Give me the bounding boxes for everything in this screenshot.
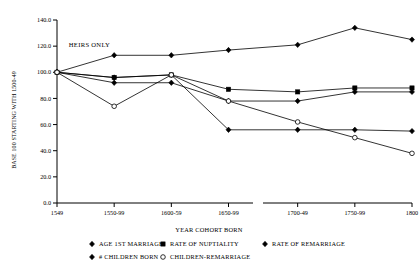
- annotation-group: HEIRS ONLY: [69, 41, 110, 48]
- legend-item-label: CHILDREN-REMARRIAGE: [170, 253, 250, 260]
- x-axis-title-text: YEAR COHORT BORN: [175, 226, 243, 233]
- legend-item-label: AGE 1ST MARRIAGE: [99, 240, 163, 247]
- y-tick-label: 80.0: [40, 95, 51, 102]
- data-point: [226, 87, 230, 91]
- x-tick-label: 1549: [51, 209, 63, 216]
- x-tick-label: 1700-49: [287, 209, 308, 216]
- chart-figure: BASE 100 STARTING WITH 1500-49 0.020.040…: [0, 0, 419, 272]
- legend-item[interactable]: CHILDREN-REMARRIAGE: [161, 253, 251, 260]
- x-tick-label: 1600-59: [161, 209, 182, 216]
- x-tick-group: 15491550-991600-591650-991700-491750-991…: [51, 203, 418, 216]
- data-point: [352, 25, 357, 30]
- legend-item[interactable]: RATE OF REMARRIAGE: [263, 240, 346, 247]
- cohort-index-line-chart: BASE 100 STARTING WITH 1500-49 0.020.040…: [0, 0, 419, 272]
- series-age-1st-marriage: [55, 25, 415, 75]
- series-rate-of-remarriage: [55, 70, 415, 104]
- legend-item[interactable]: RATE OF NUPTIALITY: [161, 240, 239, 247]
- chart-annotation: HEIRS ONLY: [69, 41, 110, 48]
- y-tick-label: 120.0: [37, 42, 51, 49]
- data-point: [112, 104, 117, 109]
- x-tick-label: 1550-99: [104, 209, 125, 216]
- y-axis-title: BASE 100 STARTING WITH 1500-49: [11, 71, 17, 169]
- y-tick-label: 140.0: [37, 16, 51, 23]
- data-point: [296, 90, 300, 94]
- y-tick-label: 60.0: [40, 121, 51, 128]
- data-point: [226, 99, 231, 104]
- data-point: [112, 80, 117, 85]
- series-children-born: [55, 70, 415, 134]
- y-tick-label: 20.0: [40, 173, 51, 180]
- x-tick-label: 1800: [406, 209, 418, 216]
- legend-item-label: # CHILDREN BORN: [99, 253, 159, 260]
- legend-marker-icon: [263, 241, 268, 246]
- data-point: [410, 128, 415, 133]
- data-point: [295, 98, 300, 103]
- series-polyline: [57, 72, 412, 153]
- data-point: [410, 151, 415, 156]
- data-point: [352, 127, 357, 132]
- y-axis-title-text: BASE 100 STARTING WITH 1500-49: [11, 71, 17, 169]
- x-tick-label: 1750-99: [345, 209, 366, 216]
- data-point: [410, 37, 415, 42]
- legend-item-label: RATE OF REMARRIAGE: [272, 240, 345, 247]
- y-axis: 0.020.040.060.080.0100.0120.0140.0: [37, 16, 57, 206]
- data-point: [226, 47, 231, 52]
- y-tick-group: 0.020.040.060.080.0100.0120.0140.0: [37, 16, 57, 206]
- y-tick-label: 100.0: [37, 68, 51, 75]
- data-point: [169, 73, 174, 78]
- data-point: [353, 135, 358, 140]
- legend-marker-icon: [161, 255, 166, 260]
- legend-item[interactable]: AGE 1ST MARRIAGE: [90, 240, 164, 247]
- x-tick-label: 1650-99: [218, 209, 239, 216]
- series-polyline: [57, 72, 412, 101]
- y-tick-label: 0.0: [43, 199, 51, 206]
- y-tick-label: 40.0: [40, 147, 51, 154]
- data-point: [112, 53, 117, 58]
- legend-item-label: RATE OF NUPTIALITY: [170, 240, 239, 247]
- data-point: [55, 70, 60, 75]
- data-point: [295, 120, 300, 125]
- data-point: [169, 80, 174, 85]
- series-polyline: [57, 28, 412, 72]
- data-point: [295, 127, 300, 132]
- legend-marker-icon: [90, 254, 95, 259]
- chart-legend: AGE 1ST MARRIAGERATE OF NUPTIALITYRATE O…: [90, 240, 346, 260]
- data-point: [169, 53, 174, 58]
- legend-marker-icon: [161, 242, 165, 246]
- legend-item[interactable]: # CHILDREN BORN: [90, 253, 159, 260]
- series-polyline: [57, 72, 412, 131]
- x-axis: 15491550-991600-591650-991700-491750-991…: [51, 203, 418, 216]
- data-point: [295, 42, 300, 47]
- series-children-remarriage: [55, 70, 415, 156]
- legend-marker-icon: [90, 241, 95, 246]
